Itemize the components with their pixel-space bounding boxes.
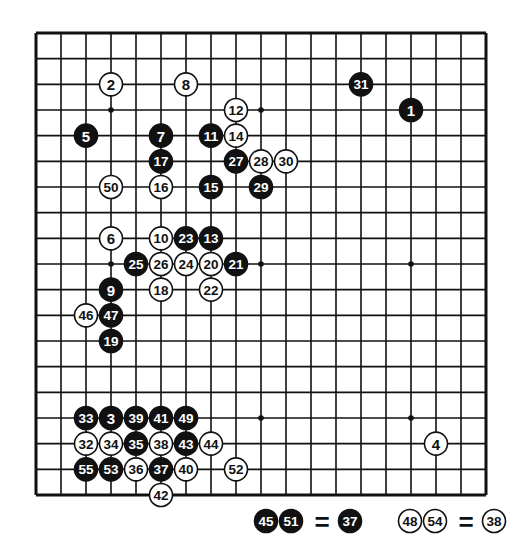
white-stone-12: 12 <box>225 99 248 122</box>
star-point <box>408 261 414 267</box>
stone-number: 46 <box>79 308 94 323</box>
move-caption: 4551=374854=38 <box>255 507 506 537</box>
stone-number: 1 <box>407 102 415 119</box>
stone-number: 37 <box>154 462 169 477</box>
star-point <box>408 415 414 421</box>
star-point <box>108 107 114 113</box>
white-stone-48: 48 <box>399 510 422 533</box>
stone-number: 29 <box>254 180 269 195</box>
white-stone-30: 30 <box>275 150 298 173</box>
black-stone-1: 1 <box>400 99 423 122</box>
stone-number: 40 <box>179 462 194 477</box>
star-point <box>258 107 264 113</box>
white-stone-40: 40 <box>175 458 198 481</box>
equals-sign: = <box>458 507 473 537</box>
stone-number: 6 <box>107 230 115 247</box>
black-stone-13: 13 <box>200 227 223 250</box>
black-stone-49: 49 <box>175 407 198 430</box>
stone-number: 51 <box>284 514 299 529</box>
stone-number: 28 <box>254 154 269 169</box>
white-stone-42: 42 <box>150 484 173 507</box>
white-stone-18: 18 <box>150 278 173 301</box>
white-stone-38: 38 <box>483 510 506 533</box>
black-stone-33: 33 <box>75 407 98 430</box>
stone-number: 42 <box>154 488 169 503</box>
white-stone-8: 8 <box>175 73 198 96</box>
black-stone-19: 19 <box>100 330 123 353</box>
stone-number: 31 <box>354 77 369 92</box>
caption-group: 4551=37 <box>255 507 362 537</box>
stone-number: 15 <box>204 180 219 195</box>
stone-number: 7 <box>157 128 165 145</box>
black-stone-53: 53 <box>100 458 123 481</box>
white-stone-2: 2 <box>100 73 123 96</box>
stone-number: 39 <box>129 411 144 426</box>
black-stone-39: 39 <box>125 407 148 430</box>
white-stone-4: 4 <box>425 432 448 455</box>
stone-number: 52 <box>229 462 244 477</box>
black-stone-37: 37 <box>150 458 173 481</box>
stone-number: 34 <box>104 437 120 452</box>
stone-number: 9 <box>107 282 115 299</box>
stone-number: 20 <box>204 257 219 272</box>
stone-number: 23 <box>179 231 194 246</box>
stone-number: 10 <box>154 231 169 246</box>
stone-number: 44 <box>204 437 220 452</box>
stone-number: 27 <box>229 154 244 169</box>
white-stone-44: 44 <box>200 432 223 455</box>
black-stone-7: 7 <box>150 124 173 147</box>
stone-number: 54 <box>428 514 444 529</box>
white-stone-46: 46 <box>75 304 98 327</box>
white-stone-28: 28 <box>250 150 273 173</box>
stone-number: 47 <box>104 308 119 323</box>
white-stone-52: 52 <box>225 458 248 481</box>
black-stone-5: 5 <box>75 124 98 147</box>
stone-number: 36 <box>129 462 144 477</box>
black-stone-51: 51 <box>280 510 303 533</box>
stone-number: 3 <box>107 410 115 427</box>
black-stone-25: 25 <box>125 253 148 276</box>
black-stone-31: 31 <box>350 73 373 96</box>
black-stone-37: 37 <box>339 510 362 533</box>
white-stone-20: 20 <box>200 253 223 276</box>
stone-number: 2 <box>107 76 115 93</box>
stone-number: 38 <box>154 437 169 452</box>
stone-number: 13 <box>204 231 219 246</box>
stone-number: 11 <box>204 129 219 144</box>
black-stone-21: 21 <box>225 253 248 276</box>
go-board-diagram: 1234567891011121314151617181920212223242… <box>0 0 521 555</box>
white-stone-54: 54 <box>424 510 447 533</box>
stone-number: 32 <box>79 437 94 452</box>
equals-sign: = <box>314 507 329 537</box>
white-stone-22: 22 <box>200 278 223 301</box>
white-stone-50: 50 <box>100 176 123 199</box>
white-stone-14: 14 <box>225 124 248 147</box>
stone-number: 25 <box>129 257 144 272</box>
black-stone-45: 45 <box>255 510 278 533</box>
white-stone-16: 16 <box>150 176 173 199</box>
stone-number: 4 <box>432 436 441 453</box>
stone-number: 22 <box>204 283 219 298</box>
black-stone-9: 9 <box>100 278 123 301</box>
stone-number: 55 <box>79 462 94 477</box>
stone-number: 30 <box>279 154 294 169</box>
stone-number: 43 <box>179 437 194 452</box>
stone-number: 50 <box>104 180 119 195</box>
black-stone-23: 23 <box>175 227 198 250</box>
stone-number: 21 <box>229 257 244 272</box>
stone-number: 33 <box>79 411 94 426</box>
stone-number: 26 <box>154 257 169 272</box>
stone-number: 17 <box>154 154 169 169</box>
stone-number: 5 <box>82 128 90 145</box>
stone-number: 37 <box>343 514 358 529</box>
stone-number: 38 <box>487 514 502 529</box>
black-stone-27: 27 <box>225 150 248 173</box>
stone-number: 19 <box>104 334 119 349</box>
black-stone-3: 3 <box>100 407 123 430</box>
white-stone-38: 38 <box>150 432 173 455</box>
stone-number: 45 <box>259 514 274 529</box>
stone-number: 14 <box>229 129 245 144</box>
stone-number: 12 <box>229 103 244 118</box>
black-stone-17: 17 <box>150 150 173 173</box>
stone-number: 41 <box>154 411 169 426</box>
